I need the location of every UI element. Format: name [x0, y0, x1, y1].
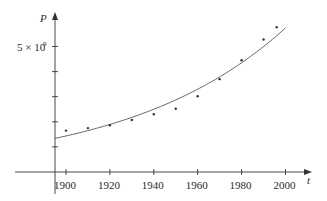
chart-canvas: t P 190019201940196019802000 5 × 109: [0, 0, 327, 201]
data-point: [175, 108, 177, 110]
x-axis-label: t: [307, 174, 311, 186]
population-chart: t P 190019201940196019802000 5 × 109: [0, 0, 327, 201]
data-points: [65, 26, 278, 132]
y-tick-label-exponent: 9: [43, 40, 47, 48]
x-tick-label: 2000: [274, 179, 297, 191]
y-axis-arrow-icon: [52, 12, 58, 20]
axes: t P: [15, 12, 312, 194]
y-tick-labels: 5 × 109: [17, 40, 47, 53]
data-point: [197, 95, 199, 97]
data-point: [109, 124, 111, 126]
data-point: [65, 129, 67, 131]
data-point: [153, 113, 155, 115]
data-point: [262, 38, 264, 40]
x-tick-label: 1980: [230, 179, 253, 191]
data-point: [218, 78, 220, 80]
model-curve: [55, 28, 285, 138]
data-point: [131, 119, 133, 121]
y-tick-label: 5 × 10: [17, 41, 46, 53]
x-tick-label: 1940: [142, 179, 165, 191]
data-point: [276, 26, 278, 28]
y-axis-label: P: [39, 12, 47, 24]
x-tick-label: 1920: [98, 179, 121, 191]
x-tick-label: 1960: [186, 179, 209, 191]
data-point: [87, 127, 89, 129]
data-point: [240, 59, 242, 61]
x-tick-label: 1900: [54, 179, 77, 191]
